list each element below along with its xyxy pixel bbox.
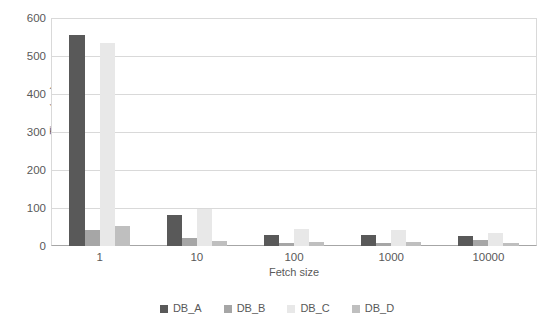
x-axis-title: Fetch size [51,266,537,278]
legend-swatch-icon [224,305,232,313]
bar [182,238,197,246]
bar [309,242,324,246]
bar [473,240,488,246]
bar [69,35,84,246]
y-axis-tick-label: 300 [6,127,46,137]
bar [212,241,227,246]
bar [197,209,212,246]
bar [167,215,182,246]
bar [264,235,279,246]
x-axis-tick-label: 10 [148,250,245,264]
y-axis-tick-label: 400 [6,89,46,99]
legend-label: DB_D [365,303,394,314]
legend-item[interactable]: DB_C [287,303,329,314]
bar [391,230,406,246]
y-axis-tick-label: 100 [6,203,46,213]
y-axis-tick-label: 200 [6,165,46,175]
bar [294,229,309,246]
legend-item[interactable]: DB_D [352,303,394,314]
x-axis-tick-label: 100 [245,250,342,264]
bar [503,243,518,246]
x-axis-tick-label: 1000 [343,250,440,264]
bar [376,243,391,246]
legend-item[interactable]: DB_A [160,303,202,314]
bar [279,243,294,246]
bar [85,230,100,246]
bar [488,233,503,246]
legend-label: DB_A [173,303,202,314]
legend-swatch-icon [352,305,360,313]
chart-legend: DB_ADB_BDB_CDB_D [0,303,554,314]
x-axis-tick-label: 10000 [440,250,537,264]
x-axis-tick-label: 1 [51,250,148,264]
bar-chart: Time (ms) 0100200300400500600 1101001000… [0,0,554,328]
legend-label: DB_C [300,303,329,314]
y-axis-tick-label: 0 [6,241,46,251]
y-axis-tick-labels: 0100200300400500600 [0,0,46,328]
bar [115,226,130,246]
legend-label: DB_B [237,303,266,314]
bar-series-layer [51,18,537,246]
legend-swatch-icon [287,305,295,313]
bar [458,236,473,246]
bar [361,235,376,246]
y-axis-tick-label: 600 [6,13,46,23]
bar [100,43,115,246]
bar [406,242,421,246]
y-axis-tick-label: 500 [6,51,46,61]
legend-item[interactable]: DB_B [224,303,266,314]
legend-swatch-icon [160,305,168,313]
